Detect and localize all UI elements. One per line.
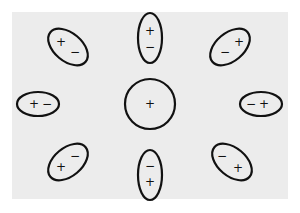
positive-sign: + (56, 160, 66, 174)
negative-sign: − (42, 97, 52, 111)
positive-sign: + (234, 35, 244, 49)
dipole-ellipse (41, 21, 94, 72)
negative-sign: − (145, 159, 155, 173)
dipole-top: +− (138, 13, 162, 63)
positive-sign: + (145, 24, 155, 38)
negative-sign: − (145, 40, 155, 54)
positive-sign: + (29, 97, 39, 111)
dipole-bottom-right: −+ (205, 136, 258, 187)
dipole-bottom: −+ (138, 150, 162, 200)
negative-sign: − (70, 149, 80, 163)
dipole-ellipse (138, 13, 162, 63)
central-charge-sign: + (145, 97, 155, 111)
positive-sign: + (259, 97, 269, 111)
negative-sign: − (217, 149, 227, 163)
dipole-top-left: +− (41, 21, 94, 72)
dipole-bottom-left: −+ (41, 136, 94, 187)
dipole-left: +− (17, 92, 59, 116)
negative-sign: − (220, 45, 230, 59)
dipole-diagram: + +−+−−++−−+−+−+−+ (0, 0, 300, 213)
negative-sign: − (246, 97, 256, 111)
dipole-top-right: −+ (203, 21, 256, 72)
dipole-ellipse (41, 136, 94, 187)
negative-sign: − (70, 45, 80, 59)
positive-sign: + (233, 161, 243, 175)
dipole-right: −+ (240, 92, 282, 116)
positive-sign: + (56, 35, 66, 49)
positive-sign: + (145, 175, 155, 189)
central-charge: + (125, 79, 175, 129)
